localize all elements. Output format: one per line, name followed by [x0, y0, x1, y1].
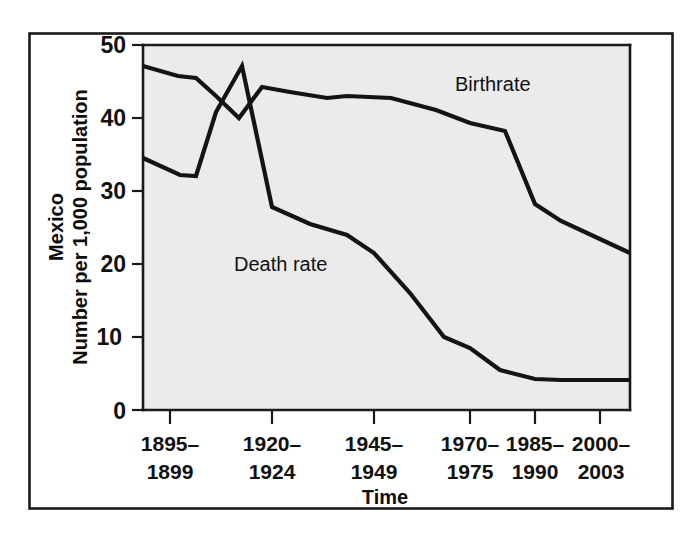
x-tick-label-0-line2: 1899 — [147, 460, 194, 483]
y-tick-label-0: 0 — [113, 398, 126, 424]
x-tick-label-5-line1: 2000– — [572, 432, 631, 455]
chart-figure: 50 40 30 20 10 0 1895– 1899 1920– 1924 1… — [0, 0, 696, 537]
y-tick-label-10: 10 — [96, 324, 122, 350]
x-tick-label-5-line2: 2003 — [578, 460, 625, 483]
y-tick-label-50: 50 — [100, 32, 126, 58]
x-tick-label-2-line2: 1949 — [351, 460, 398, 483]
x-tick-label-3-line2: 1975 — [447, 460, 494, 483]
y-axis-title-measure: Number per 1,000 population — [69, 89, 91, 365]
x-tick-label-1-line2: 1924 — [249, 460, 296, 483]
y-tick-label-30: 30 — [100, 178, 126, 204]
x-tick-label-4-line2: 1990 — [512, 460, 559, 483]
series-label-death-rate: Death rate — [234, 253, 327, 275]
x-tick-label-2-line1: 1945– — [345, 432, 404, 455]
x-tick-label-1-line1: 1920– — [243, 432, 302, 455]
x-tick-label-4-line1: 1985– — [506, 432, 565, 455]
y-tick-label-40: 40 — [100, 105, 126, 131]
y-tick-label-20: 20 — [100, 251, 126, 277]
y-axis-title-region: Mexico — [45, 193, 67, 261]
series-label-birthrate: Birthrate — [455, 73, 531, 95]
x-axis-title: Time — [362, 486, 408, 508]
x-tick-label-3-line1: 1970– — [441, 432, 500, 455]
x-tick-label-0-line1: 1895– — [141, 432, 200, 455]
